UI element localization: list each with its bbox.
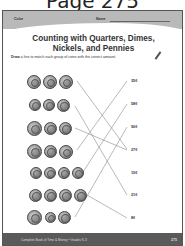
dime-coin (43, 99, 55, 111)
amount-8[interactable]: 8¢ (131, 216, 135, 220)
penny-coin (45, 212, 56, 223)
dime-coin (58, 167, 70, 179)
amount-21[interactable]: 21¢ (131, 193, 137, 197)
dime-coin (29, 99, 41, 111)
footer-page-number: 275 (171, 238, 177, 242)
penny-coin (74, 189, 87, 202)
nickel-coin (58, 211, 71, 224)
amount-15[interactable]: 15¢ (131, 171, 137, 175)
nickel-coin (59, 75, 73, 89)
worksheet: Color Name Counting with Quarters, Dimes… (2, 10, 183, 246)
dime-coin (44, 167, 56, 179)
dime-coin (59, 189, 72, 202)
dime-coin (30, 167, 42, 179)
dime-coin (44, 145, 57, 158)
quarter-coin (27, 210, 42, 225)
nickel-coin (43, 75, 57, 89)
quarter-coin (27, 121, 42, 136)
footer-book-title: Complete Book of Time & Money • Grades K… (21, 238, 87, 242)
nickel-coin (44, 189, 57, 202)
nickel-coin (59, 145, 73, 159)
quarter-coin (27, 75, 41, 89)
quarter-coin (27, 144, 42, 159)
nickel-coin (57, 99, 70, 112)
dime-coin (72, 167, 84, 179)
nickel-coin (44, 122, 57, 135)
amount-27[interactable]: 27¢ (131, 148, 137, 152)
amount-90[interactable]: 90¢ (131, 125, 137, 129)
nickel-coin (29, 189, 42, 202)
amount-58[interactable]: 58¢ (131, 102, 137, 106)
footer: Complete Book of Time & Money • Grades K… (3, 233, 183, 246)
amount-35[interactable]: 35¢ (131, 79, 137, 83)
dime-coin (59, 122, 72, 135)
